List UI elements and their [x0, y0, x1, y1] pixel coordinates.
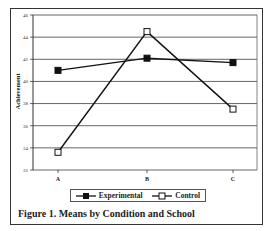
y-tick-label: 42 — [23, 57, 29, 62]
y-tick-label: 40 — [23, 79, 29, 84]
y-tick-label: 44 — [23, 35, 29, 40]
y-tick-label: 38 — [23, 101, 29, 106]
x-tick-label: C — [231, 176, 235, 182]
y-tick-label: 32 — [23, 168, 29, 173]
legend-item-experimental: Experimental — [76, 191, 143, 200]
filled-square-marker-icon — [76, 192, 96, 200]
y-axis-label: Achievement — [14, 73, 21, 109]
figure-caption: Figure 1. Means by Condition and School — [18, 208, 195, 219]
data-point-control — [144, 29, 150, 35]
data-point-control — [55, 149, 61, 155]
data-point-experimental — [230, 60, 236, 66]
legend-label-experimental: Experimental — [99, 191, 143, 200]
data-point-experimental — [144, 55, 150, 61]
data-point-experimental — [55, 67, 61, 73]
data-point-control — [230, 106, 236, 112]
legend-item-control: Control — [152, 191, 200, 200]
y-tick-label: 36 — [23, 124, 29, 129]
x-tick-label: B — [145, 176, 149, 182]
open-square-marker-icon — [152, 192, 172, 200]
y-tick-label: 34 — [23, 146, 29, 151]
chart-legend: Experimental Control — [70, 189, 206, 202]
legend-label-control: Control — [175, 191, 200, 200]
y-tick-label: 46 — [23, 13, 29, 18]
series-line-control — [58, 32, 233, 153]
x-tick-label: A — [56, 176, 61, 182]
